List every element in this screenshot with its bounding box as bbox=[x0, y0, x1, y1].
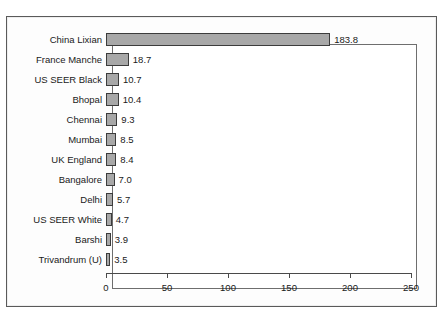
bar bbox=[106, 93, 119, 106]
bar-row: Bangalore7.0 bbox=[1, 170, 444, 190]
category-label: Trivandrum (U) bbox=[38, 254, 102, 266]
x-axis-tick-label: 100 bbox=[208, 282, 248, 294]
bar-row: US SEER Black10.7 bbox=[1, 70, 444, 90]
bar-row: Mumbai8.5 bbox=[1, 130, 444, 150]
category-label: UK England bbox=[51, 154, 102, 166]
bar-row: France Manche18.7 bbox=[1, 50, 444, 70]
bar-value-label: 183.8 bbox=[334, 34, 358, 46]
x-axis-tick bbox=[289, 273, 290, 278]
x-axis-tick-label: 150 bbox=[269, 282, 309, 294]
category-label: Bhopal bbox=[72, 94, 102, 106]
bar bbox=[106, 133, 116, 146]
bar-row: UK England8.4 bbox=[1, 150, 444, 170]
bar-value-label: 4.7 bbox=[116, 214, 129, 226]
category-label: Bangalore bbox=[59, 174, 102, 186]
bar-row: Bhopal10.4 bbox=[1, 90, 444, 110]
bar-value-label: 18.7 bbox=[133, 54, 152, 66]
bar-row: Delhi5.7 bbox=[1, 190, 444, 210]
x-axis-tick-label: 50 bbox=[147, 282, 187, 294]
bar-value-label: 3.5 bbox=[114, 254, 127, 266]
category-label: US SEER White bbox=[33, 214, 102, 226]
x-axis-tick bbox=[106, 273, 107, 278]
category-label: China Lixian bbox=[50, 34, 102, 46]
bar-row: China Lixian183.8 bbox=[1, 30, 444, 50]
x-axis-tick bbox=[167, 273, 168, 278]
bar bbox=[106, 33, 330, 46]
bar bbox=[106, 173, 115, 186]
category-label: US SEER Black bbox=[34, 74, 102, 86]
x-axis-tick-label: 250 bbox=[391, 282, 431, 294]
x-axis-tick bbox=[228, 273, 229, 278]
bar-value-label: 5.7 bbox=[117, 194, 130, 206]
bar-row: Barshi3.9 bbox=[1, 230, 444, 250]
category-label: France Manche bbox=[36, 54, 102, 66]
bar bbox=[106, 73, 119, 86]
bar-value-label: 9.3 bbox=[121, 114, 134, 126]
category-label: Barshi bbox=[75, 234, 102, 246]
bar bbox=[106, 153, 116, 166]
bar-value-label: 10.4 bbox=[123, 94, 142, 106]
bar-value-label: 10.7 bbox=[123, 74, 142, 86]
bar bbox=[106, 213, 112, 226]
x-axis-line bbox=[106, 273, 412, 274]
category-label: Mumbai bbox=[68, 134, 102, 146]
bar bbox=[106, 253, 110, 266]
category-label: Delhi bbox=[80, 194, 102, 206]
chart-frame: China Lixian183.8France Manche18.7US SEE… bbox=[6, 16, 437, 307]
bar-value-label: 8.5 bbox=[120, 134, 133, 146]
x-axis-tick bbox=[350, 273, 351, 278]
x-axis-tick bbox=[411, 273, 412, 278]
x-axis-tick-label: 200 bbox=[330, 282, 370, 294]
chart-title bbox=[0, 0, 444, 1]
bar bbox=[106, 113, 117, 126]
bar-row: US SEER White4.7 bbox=[1, 210, 444, 230]
bar-row: Chennai9.3 bbox=[1, 110, 444, 130]
category-label: Chennai bbox=[67, 114, 102, 126]
bar-value-label: 8.4 bbox=[120, 154, 133, 166]
bar-row: Trivandrum (U)3.5 bbox=[1, 250, 444, 270]
bar-value-label: 7.0 bbox=[119, 174, 132, 186]
bar bbox=[106, 233, 111, 246]
bar bbox=[106, 53, 129, 66]
bar bbox=[106, 193, 113, 206]
bar-value-label: 3.9 bbox=[115, 234, 128, 246]
x-axis-tick-label: 0 bbox=[86, 282, 126, 294]
